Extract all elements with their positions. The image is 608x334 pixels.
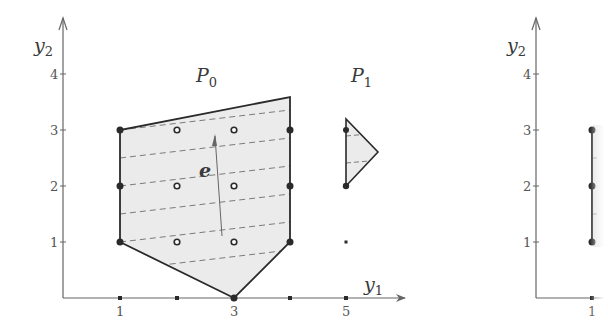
y-axis-label: y2	[33, 34, 53, 59]
right-y-tick-4: 4	[523, 67, 531, 82]
y-tick-1: 1	[50, 235, 58, 250]
left-plot: 1 2 3 4 1 3 5 y2 y1 P0 e	[33, 18, 405, 319]
right-y-tick-1: 1	[523, 235, 531, 250]
right-y-tick-3: 3	[523, 123, 531, 138]
x-tick-1: 1	[116, 304, 124, 319]
polytope-p0	[120, 97, 290, 298]
p1-label: P1	[350, 64, 372, 90]
y-tick-2: 2	[50, 179, 58, 194]
polytope-p1	[346, 119, 380, 186]
right-y-axis-label: y2	[506, 34, 526, 59]
edge-fade	[590, 0, 608, 334]
diagram-canvas: 1 2 3 4 1 3 5 y2 y1 P0 e	[0, 0, 608, 334]
right-y-tick-2: 2	[523, 179, 531, 194]
p0-label: P0	[195, 64, 217, 90]
y-tick-3: 3	[50, 123, 58, 138]
vector-e-label: e	[199, 159, 211, 181]
x-tick-5: 5	[342, 304, 350, 319]
y-tick-4: 4	[50, 67, 58, 82]
x-axis-label: y1	[363, 273, 383, 298]
x-tick-3: 3	[230, 304, 238, 319]
